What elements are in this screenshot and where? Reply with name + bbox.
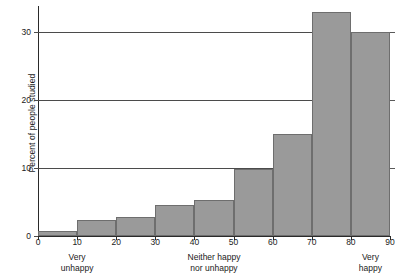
y-tick-right-30 — [390, 32, 395, 33]
bar-10-20 — [77, 220, 116, 236]
bar-20-30 — [116, 217, 155, 236]
x-annotation-2: Veryhappy — [310, 252, 404, 274]
y-tick-label-30: 30 — [5, 28, 31, 37]
x-annotation-2-line2: happy — [310, 263, 404, 274]
x-annotation-2-line1: Very — [310, 252, 404, 263]
x-annotation-0: Veryunhappy — [17, 252, 137, 274]
x-annotation-0-line2: unhappy — [17, 263, 137, 274]
x-annotation-0-line1: Very — [17, 252, 137, 263]
bar-0-10 — [38, 231, 77, 236]
x-tick-label-30: 30 — [143, 238, 167, 247]
x-tick-label-80: 80 — [339, 238, 363, 247]
plot-area — [38, 6, 390, 236]
bar-60-70 — [273, 134, 312, 236]
x-tick-label-20: 20 — [104, 238, 128, 247]
y-tick-right-20 — [390, 100, 395, 101]
bar-30-40 — [155, 205, 194, 236]
bar-50-60 — [234, 169, 273, 236]
x-tick-label-50: 50 — [222, 238, 246, 247]
x-annotation-1: Neither happynor unhappy — [154, 252, 274, 274]
x-annotation-1-line1: Neither happy — [154, 252, 274, 263]
histogram-chart: Percent of people studied 0102030 010203… — [0, 0, 404, 280]
x-tick-label-0: 0 — [26, 238, 50, 247]
x-tick-label-10: 10 — [65, 238, 89, 247]
x-tick-label-40: 40 — [182, 238, 206, 247]
x-tick-label-90: 90 — [378, 238, 402, 247]
y-tick-10 — [34, 168, 38, 169]
x-annotation-1-line2: nor unhappy — [154, 263, 274, 274]
y-tick-right-10 — [390, 168, 395, 169]
y-tick-label-10: 10 — [5, 164, 31, 173]
bar-70-80 — [312, 12, 351, 236]
x-tick-label-70: 70 — [300, 238, 324, 247]
bar-80-90 — [351, 32, 390, 236]
y-axis-line — [38, 6, 39, 236]
y-tick-30 — [34, 32, 38, 33]
x-axis-line — [34, 236, 390, 237]
y-tick-20 — [34, 100, 38, 101]
y-tick-label-20: 20 — [5, 96, 31, 105]
bar-40-50 — [194, 200, 233, 236]
y-axis-title: Percent of people studied — [27, 28, 37, 218]
x-tick-label-60: 60 — [261, 238, 285, 247]
